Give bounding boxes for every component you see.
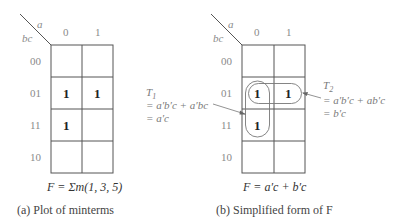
col-label-0: 0 <box>254 26 260 38</box>
cell-01-1: 1 <box>285 86 292 101</box>
cell-01-0: 1 <box>63 86 70 101</box>
svg-text:= a′b′c + a′bc: = a′b′c + a′bc <box>146 99 208 111</box>
svg-text:= a′b′c + ab′c: = a′b′c + ab′c <box>323 94 385 106</box>
row-label-10: 10 <box>30 151 42 163</box>
row-label-00: 00 <box>30 55 42 67</box>
row-label-01: 01 <box>30 87 41 99</box>
caption-a: (a) Plot of minterms <box>17 203 114 217</box>
caption-b: (b) Simplified form of F <box>216 203 333 217</box>
col-variable-label: a <box>37 18 43 30</box>
row-label-01: 01 <box>221 87 232 99</box>
karnaugh-map-b: a bc 0 1 00 01 11 10 1 1 1 T1 = a′b′c + … <box>146 14 385 217</box>
annotation-t2: T2 = a′b′c + ab′c = b′c <box>302 79 385 119</box>
function-b: F = a′c + b′c <box>242 180 307 194</box>
row-label-10: 10 <box>221 151 233 163</box>
svg-text:= b′c: = b′c <box>323 107 346 119</box>
row-label-00: 00 <box>221 55 233 67</box>
svg-text:T2: T2 <box>323 79 333 94</box>
svg-text:= a′c: = a′c <box>146 112 169 124</box>
col-label-1: 1 <box>95 26 101 38</box>
col-label-0: 0 <box>63 26 69 38</box>
row-variable-label: bc <box>22 32 33 44</box>
function-a: F = Σm(1, 3, 5) <box>46 180 122 194</box>
karnaugh-map-a: a bc 0 1 00 01 11 10 1 1 1 F = Σm(1, 3, … <box>17 14 122 217</box>
row-label-11: 11 <box>221 119 232 131</box>
row-variable-label: bc <box>213 32 224 44</box>
cell-01-1: 1 <box>94 86 101 101</box>
cell-01-0: 1 <box>254 86 261 101</box>
cell-11-0: 1 <box>254 118 261 133</box>
col-variable-label: a <box>228 18 234 30</box>
row-label-11: 11 <box>30 119 41 131</box>
col-label-1: 1 <box>286 26 292 38</box>
cell-11-0: 1 <box>63 118 70 133</box>
